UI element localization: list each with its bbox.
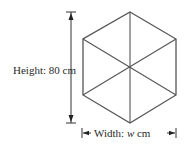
arrowhead-down-icon xyxy=(69,115,74,122)
arrowhead-right-icon xyxy=(169,131,175,135)
width-label-prefix: Width: xyxy=(94,127,127,139)
hexagon-diagram: Height: 80 cm Width: w cm xyxy=(0,0,189,146)
arrowhead-left-icon xyxy=(83,131,89,135)
arrowhead-up-icon xyxy=(69,13,74,20)
width-label: Width: w cm xyxy=(94,127,151,139)
height-label: Height: 80 cm xyxy=(13,64,76,76)
width-label-suffix: cm xyxy=(134,127,151,139)
